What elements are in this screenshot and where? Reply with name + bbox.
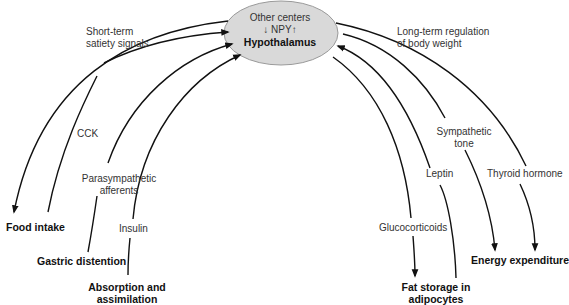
fat-storage-label: Fat storage in adipocytes [398, 281, 474, 305]
short-term-line1: Short-term [86, 26, 149, 38]
food-intake-label: Food intake [6, 221, 65, 233]
glucocorticoids-label: Glucocorticoids [379, 222, 447, 234]
fat-storage-line1: Fat storage in [398, 281, 474, 293]
hypothalamus-title: Hypothalamus [223, 36, 337, 48]
short-term-label: Short-term satiety signals [86, 26, 149, 50]
npy-label: ↓ NPY↑ [223, 24, 337, 36]
energy-expenditure-label: Energy expenditure [471, 254, 569, 266]
arrow-insulin-lower [128, 238, 130, 275]
sympathetic-line2: tone [426, 138, 502, 150]
absorption-line1: Absorption and [82, 281, 172, 293]
sympathetic-line1: Sympathetic [426, 126, 502, 138]
arrow-glucocorticoids-lower [413, 236, 415, 276]
insulin-label: Insulin [119, 223, 148, 235]
short-term-line2: satiety signals [86, 38, 149, 50]
arrow-glucocorticoids-upper [333, 57, 411, 218]
arrow-thyroid-lower [520, 184, 535, 250]
absorption-label: Absorption and assimilation [82, 281, 172, 305]
arrow-parasympathetic-lower [88, 196, 97, 252]
parasympathetic-line1: Parasympathetic [67, 173, 171, 185]
gastric-distention-label: Gastric distention [37, 255, 126, 267]
thyroid-label: Thyroid hormone [487, 168, 563, 180]
fat-storage-line2: adipocytes [398, 293, 474, 305]
hypothalamus-label: Other centers ↓ NPY↑ Hypothalamus [223, 12, 337, 48]
cck-label: CCK [77, 128, 98, 140]
arrow-leptin-upper [338, 46, 430, 168]
parasympathetic-line2: afferents [67, 185, 171, 197]
leptin-label: Leptin [426, 168, 453, 180]
long-term-line2: of body weight [397, 38, 489, 50]
arrow-parasympathetic-upper [108, 44, 232, 163]
parasympathetic-label: Parasympathetic afferents [67, 173, 171, 197]
other-centers-label: Other centers [223, 12, 337, 24]
absorption-line2: assimilation [82, 293, 172, 305]
long-term-label: Long-term regulation of body weight [397, 26, 489, 50]
long-term-line1: Long-term regulation [397, 26, 489, 38]
sympathetic-label: Sympathetic tone [426, 126, 502, 150]
arrow-sympathetic-lower [465, 150, 495, 250]
